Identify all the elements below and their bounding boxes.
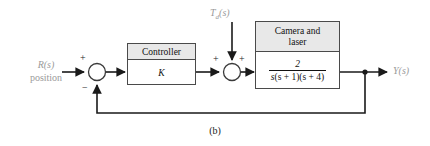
plant-block-header: Camera and laser <box>256 22 339 52</box>
plant-block-header-line1: Camera and <box>275 26 321 37</box>
figure-caption-text: (b) <box>209 125 221 136</box>
input-position-sublabel: position <box>22 73 70 83</box>
summer1-minus-text: − <box>82 82 88 93</box>
summing-junction-1-circle <box>89 64 106 81</box>
transfer-function-denominator: s(s + 1)(s + 4) <box>269 72 326 82</box>
disturbance-argument: (s) <box>219 7 230 18</box>
plant-block-header-line2: laser <box>289 37 307 48</box>
input-position-text: position <box>30 72 62 83</box>
controller-block-header-label: Controller <box>142 47 181 57</box>
controller-block-header: Controller <box>128 44 195 60</box>
figure-caption: (b) <box>0 126 430 136</box>
block-diagram-figure: Controller K Camera and laser 2 s(s + 1)… <box>0 0 430 146</box>
summer2-plus-left-text: + <box>213 53 219 64</box>
input-signal-text: R(s) <box>38 59 55 70</box>
denominator-factors: (s + 1)(s + 4) <box>274 72 324 82</box>
controller-block: Controller K <box>127 43 196 85</box>
summer1-minus-sign: − <box>82 83 88 93</box>
summing-junction-2-circle <box>224 64 241 81</box>
summer2-plus-top-sign: + <box>239 54 245 64</box>
summer1-plus-text: + <box>80 52 86 63</box>
summer2-plus-top-text: + <box>239 53 245 64</box>
output-signal-label: Y(s) <box>393 66 409 76</box>
input-signal-label: R(s) <box>26 60 66 70</box>
output-signal-text: Y(s) <box>393 65 409 76</box>
disturbance-signal-label: Td(s) <box>210 8 230 21</box>
fraction-bar <box>269 70 326 71</box>
plant-block-body: 2 s(s + 1)(s + 4) <box>256 52 339 89</box>
transfer-function-numerator: 2 <box>269 59 326 69</box>
controller-gain-label: K <box>158 68 164 78</box>
summer2-plus-left-sign: + <box>213 54 219 64</box>
plant-transfer-function: 2 s(s + 1)(s + 4) <box>269 59 326 82</box>
controller-block-body: K <box>128 60 195 86</box>
plant-block: Camera and laser 2 s(s + 1)(s + 4) <box>255 21 340 89</box>
summer1-plus-sign: + <box>80 53 86 63</box>
